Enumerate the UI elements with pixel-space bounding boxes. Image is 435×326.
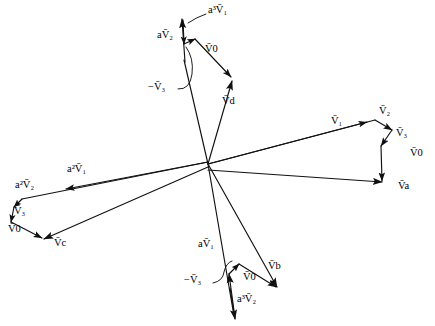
label-a2V1-left: a²V̄₁ [67, 164, 86, 175]
label-negV3-bottom: −V̄₃ [184, 275, 201, 286]
leader-negV3-top [178, 47, 192, 89]
vector-diagram-canvas: a³V̄₁ aV̄₂ V̄0 −V̄₃ V̄d V̄₁ V̄₂ V̄₃ V̄0 … [0, 0, 435, 326]
vector-negV3-bottom [229, 264, 239, 274]
leader-a3V1-top [188, 14, 206, 23]
vector-V1-right-stem [208, 120, 375, 164]
label-V3-left: V̄₃ [14, 206, 25, 217]
vector-negV3-top [184, 39, 195, 44]
label-a3V2-bottom: a³V̄₂ [237, 294, 256, 305]
vector-V3-right [381, 130, 392, 146]
label-V1-right: V̄₁ [331, 116, 342, 127]
label-a3V1-top: a³V̄₁ [208, 5, 227, 16]
vector-a3V2-bottom [229, 274, 235, 318]
vector-a3V1-top-stem [184, 60, 208, 164]
label-Vc: V̄c [54, 238, 66, 249]
vector-a2V1-left-stem [22, 162, 208, 199]
label-V0-right: V̄0 [410, 148, 423, 159]
label-negV3-top: −V̄₃ [148, 82, 165, 93]
label-aV1-bottom: aV̄₁ [198, 239, 214, 250]
vector-V2-right [375, 120, 392, 130]
vector-Vd-resultant [208, 81, 232, 164]
vector-Va-resultant [208, 170, 382, 182]
label-Va: V̄a [398, 181, 409, 192]
label-Vd: V̄d [222, 96, 235, 107]
label-aV2-top: aV̄₂ [157, 30, 173, 41]
vector-V0-right [381, 146, 382, 181]
label-V0-bottom: V̄0 [243, 272, 256, 283]
label-V3-right: V̄₃ [396, 128, 407, 139]
leader-negV3-bottom [213, 261, 232, 283]
label-V0-top: V̄0 [205, 44, 218, 55]
label-Vb: V̄b [268, 261, 281, 272]
label-V0-left: V̄0 [8, 224, 21, 235]
label-a2V2-left: a²V̄₂ [15, 180, 34, 191]
label-V2-right: V̄₂ [379, 106, 390, 117]
